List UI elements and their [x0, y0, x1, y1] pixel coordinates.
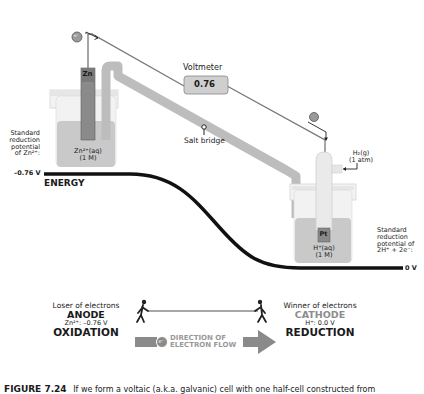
- right-potential-value: 0 V: [405, 265, 417, 272]
- flow-line2: ELECTRON FLOW: [170, 342, 236, 349]
- wire: [88, 34, 325, 176]
- voltmeter-value: 0.76: [194, 80, 215, 89]
- caption-label: FIGURE 7.24: [4, 384, 67, 394]
- left-potential-line: of Zn²⁺:: [0, 150, 40, 157]
- anode-solution-line2: (1 M): [68, 155, 108, 162]
- electron-label: e⁻: [74, 34, 79, 38]
- h2-inlet-arrow: [343, 163, 357, 171]
- voltmeter-label: Voltmeter: [183, 64, 222, 72]
- cathode-solution-line2: (1 M): [304, 252, 344, 259]
- energy-label: ENERGY: [44, 179, 84, 188]
- anode-process: OXIDATION: [48, 327, 124, 338]
- electron-flow-label: DIRECTION OF ELECTRON FLOW: [170, 335, 236, 350]
- h2-gas-label: H₂(g) (1 atm): [346, 150, 376, 164]
- cathode-process: REDUCTION: [278, 327, 362, 338]
- pt-electrode-label: Pt: [320, 231, 328, 238]
- figure-caption: FIGURE 7.24 If we form a voltaic (a.k.a.…: [4, 385, 375, 394]
- person-left-icon: [137, 300, 148, 322]
- right-potential-line: 2H⁺ + 2e⁻:: [377, 247, 414, 254]
- h2-gas-line2: (1 atm): [346, 157, 376, 164]
- caption-text: If we form a voltaic (a.k.a. galvanic) c…: [73, 385, 375, 394]
- zn-electrode: [81, 68, 95, 140]
- flow-electron-label: e⁻: [159, 339, 165, 344]
- anode-solution-label: Zn²⁺(aq) (1 M): [68, 148, 108, 162]
- left-potential-label: Standard reduction potential of Zn²⁺:: [0, 130, 40, 157]
- zn-electrode-label: Zn: [83, 71, 93, 78]
- cathode-solution-label: H⁺(aq) (1 M): [304, 245, 344, 259]
- cathode-legend: Winner of electrons CATHODE H⁺: 0.0 V RE…: [278, 302, 362, 338]
- person-right-icon: [255, 300, 266, 322]
- anode-legend: Loser of electrons ANODE Zn²⁺: –0.76 V O…: [48, 302, 124, 338]
- left-potential-value: –0.76 V: [14, 170, 41, 177]
- salt-bridge-label: Salt bridge: [184, 137, 225, 145]
- right-potential-label: Standard reduction potential of 2H⁺ + 2e…: [377, 227, 414, 254]
